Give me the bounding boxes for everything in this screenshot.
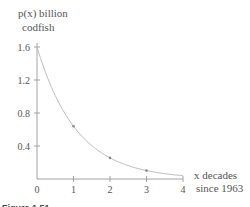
x-tick-label: 3: [144, 184, 149, 195]
x-tick-label: 1: [71, 184, 76, 195]
data-point: [145, 169, 148, 172]
chart: p(x) billion codfish x decades since 196…: [0, 0, 250, 207]
y-tick-label: 0.4: [18, 141, 31, 152]
y-axis-label-line2: codfish: [22, 21, 55, 33]
x-axis-label-line2: since 1963: [196, 182, 244, 194]
figure-caption: Figure 1.51: [2, 203, 50, 207]
y-tick-label: 0.8: [18, 108, 31, 119]
x-tick-label: 0: [35, 184, 40, 195]
y-tick-label: 1.6: [18, 42, 31, 53]
data-point: [72, 125, 75, 128]
x-tick-label: 4: [181, 184, 186, 195]
x-axis-label-line1: x decades: [194, 169, 237, 181]
data-point: [109, 157, 112, 160]
series-curve: [37, 47, 183, 176]
x-tick-label: 2: [108, 184, 113, 195]
y-axis-label-line1: p(x) billion: [18, 7, 68, 20]
y-tick-label: 1.2: [18, 75, 31, 86]
